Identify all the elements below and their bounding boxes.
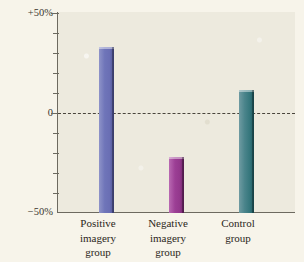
bar-shadow-edge: [182, 157, 185, 213]
y-tick-label-top: +50%: [7, 7, 53, 18]
bar-negative-imagery-group[interactable]: [169, 157, 184, 213]
bar-positive-imagery-group[interactable]: [99, 47, 114, 213]
y-tick-30: [53, 53, 59, 54]
y-tick-n40: [53, 193, 59, 194]
y-tick-20: [53, 73, 59, 74]
category-line-3: group: [120, 245, 216, 260]
y-tick-50: [51, 13, 59, 14]
bar-shadow-edge: [112, 47, 115, 213]
y-tick-n10: [53, 133, 59, 134]
category-line-1: Control: [190, 216, 286, 231]
y-tick-10: [53, 93, 59, 94]
bar-shadow-edge: [252, 90, 255, 213]
y-tick-label-bottom: −50%: [7, 206, 53, 217]
bar-control-group[interactable]: [239, 90, 254, 213]
category-line-2: group: [190, 231, 286, 246]
y-tick-n30: [53, 173, 59, 174]
y-tick-n20: [53, 153, 59, 154]
bar-chart-figure: Percent improvement +50% 0 −50%: [0, 0, 304, 262]
y-tick-label-zero: 0: [7, 107, 53, 118]
zero-reference-line: [58, 113, 295, 114]
plot-area: [57, 12, 295, 213]
y-tick-40: [53, 33, 59, 34]
x-category-label-control: Control group: [190, 216, 286, 245]
